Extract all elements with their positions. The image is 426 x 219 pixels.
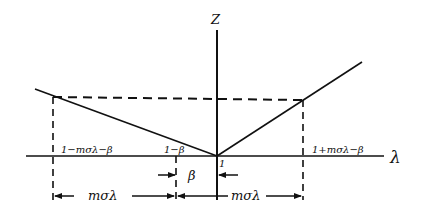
- beta-gap-label: β: [187, 168, 196, 183]
- right-span-label: mσλ: [231, 188, 260, 203]
- tick-label-left-inner: 1−β: [164, 144, 185, 155]
- tick-label-origin: 1: [219, 158, 225, 169]
- tick-label-right-outer: 1+mσλ−β: [312, 144, 364, 155]
- left-span-label: mσλ: [88, 188, 117, 203]
- lambda-axis-label: λ: [389, 147, 401, 167]
- v-shaped-function-diagram: Z λ 1−mσλ−β 1−β 1 1+mσλ−β β mσλ mσλ: [0, 0, 426, 219]
- z-axis-label: Z: [210, 12, 221, 27]
- right-branch-line: [217, 62, 362, 156]
- dashed-level-line: [53, 97, 303, 100]
- tick-label-left-outer: 1−mσλ−β: [61, 144, 113, 155]
